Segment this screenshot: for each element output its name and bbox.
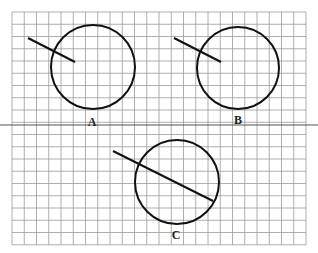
figure-b: B — [174, 27, 279, 127]
circle-b — [197, 27, 279, 109]
figure-c: C — [113, 140, 219, 242]
label-c: C — [172, 228, 181, 242]
line-c — [113, 151, 213, 201]
label-b: B — [234, 113, 242, 127]
circle-grid-diagram: A B C — [0, 0, 318, 253]
figure-a: A — [28, 25, 135, 129]
label-a: A — [88, 115, 97, 129]
